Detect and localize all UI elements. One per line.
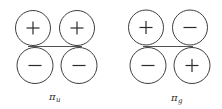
orbital-label-pi-u: πu	[49, 92, 61, 105]
orbital-diagram-canvas	[0, 0, 222, 109]
pi-symbol: π	[171, 92, 178, 103]
pi-subscript-u: u	[56, 96, 61, 104]
pi-subscript-g: g	[178, 97, 182, 105]
molecular-orbital-figure: πu πg	[0, 0, 222, 109]
pi-symbol: π	[49, 91, 56, 102]
orbital-label-pi-g: πg	[171, 93, 183, 106]
